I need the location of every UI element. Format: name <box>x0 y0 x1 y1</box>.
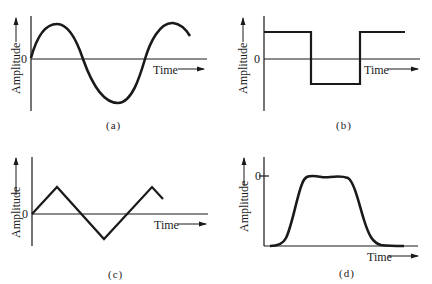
panel-b-y-label: Amplitude <box>237 43 249 94</box>
panel-a-plot <box>16 16 207 111</box>
panel-b-zero-label: 0 <box>254 53 260 65</box>
panel-d-caption: (d) <box>339 268 355 279</box>
panel-c-x-label: Time <box>154 219 179 231</box>
panel-d-pulse-wave <box>270 176 404 246</box>
panel-b-x-label: Time <box>364 64 389 76</box>
panel-c-plot <box>16 157 208 246</box>
waveform-figure <box>0 0 432 284</box>
panel-a-x-label: Time <box>153 64 178 76</box>
panel-a-y-label: Amplitude <box>10 43 22 94</box>
panel-d-zero-label: 0 <box>255 170 261 182</box>
panel-d-y-label: Amplitude <box>238 181 250 232</box>
panel-c-y-label: Amplitude <box>10 187 22 238</box>
panel-b-plot <box>243 16 420 111</box>
panel-d-plot <box>244 157 418 256</box>
panel-c-caption: (c) <box>108 269 123 280</box>
panel-a-caption: (a) <box>106 120 121 131</box>
panel-b-caption: (b) <box>336 120 352 131</box>
panel-c-triangle-wave <box>32 187 163 239</box>
panel-d-x-label: Time <box>367 251 392 263</box>
